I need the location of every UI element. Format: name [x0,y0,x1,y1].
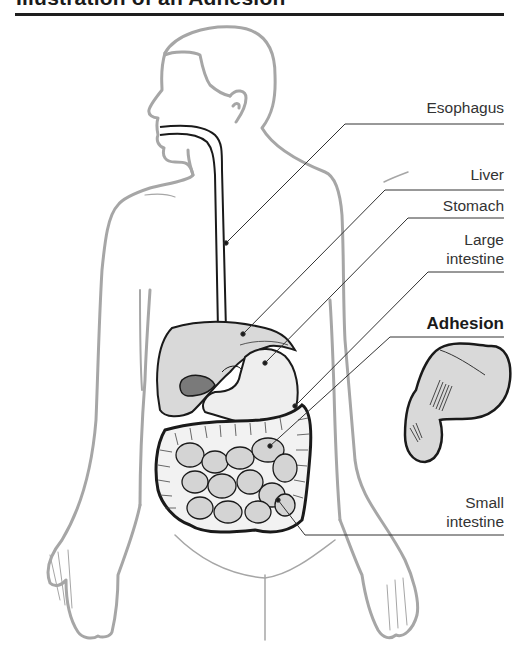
leader-esophagus [226,124,504,243]
label-adhesion: Adhesion [427,314,504,333]
label-small-intestine: Small intestine [446,493,504,531]
adhesion-inset [405,344,510,462]
label-stomach: Stomach [443,196,504,215]
label-large-intestine: Large intestine [446,230,504,268]
esophagus-tube [160,126,226,330]
label-liver: Liver [470,165,504,184]
label-esophagus: Esophagus [426,98,504,117]
label-small-intestine-line1: Small [446,493,504,512]
label-large-intestine-line2: intestine [446,249,504,268]
small-intestine [176,438,297,523]
label-large-intestine-line1: Large [446,230,504,249]
label-small-intestine-line2: intestine [446,512,504,531]
